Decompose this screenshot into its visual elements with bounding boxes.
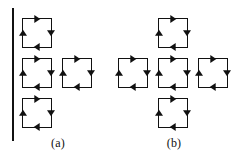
panel-a-label: (a) <box>0 136 116 151</box>
arrow-up-icon <box>19 30 27 36</box>
arrow-right-icon <box>74 55 80 63</box>
arrow-up-icon <box>115 70 123 76</box>
arrow-left-icon <box>170 123 176 131</box>
arrow-up-icon <box>19 70 27 76</box>
panel-b: (b) <box>116 0 232 158</box>
arrow-left-icon <box>34 43 40 51</box>
loop-a3 <box>62 58 92 88</box>
arrow-left-icon <box>74 83 80 91</box>
panel-b-label: (b) <box>116 136 232 151</box>
arrow-left-icon <box>170 83 176 91</box>
arrow-up-icon <box>195 70 203 76</box>
loop-b-top <box>158 18 188 48</box>
panel-a-boundary-line <box>12 8 14 141</box>
loop-b-center <box>158 58 188 88</box>
arrow-right-icon <box>34 95 40 103</box>
arrow-down-icon <box>47 30 55 36</box>
arrow-down-icon <box>223 70 231 76</box>
loop-b-left <box>118 58 148 88</box>
arrow-left-icon <box>34 83 40 91</box>
loop-a1 <box>22 18 52 48</box>
arrow-up-icon <box>19 110 27 116</box>
arrow-left-icon <box>130 83 136 91</box>
arrow-down-icon <box>47 70 55 76</box>
arrow-right-icon <box>130 55 136 63</box>
arrow-down-icon <box>183 30 191 36</box>
current-loop-figure: (a) (b) <box>0 0 232 158</box>
arrow-up-icon <box>59 70 67 76</box>
arrow-right-icon <box>170 95 176 103</box>
arrow-right-icon <box>170 55 176 63</box>
arrow-down-icon <box>87 70 95 76</box>
arrow-up-icon <box>155 70 163 76</box>
panel-a: (a) <box>0 0 116 158</box>
loop-b-right <box>198 58 228 88</box>
arrow-right-icon <box>170 15 176 23</box>
loop-a2 <box>22 58 52 88</box>
arrow-down-icon <box>183 110 191 116</box>
arrow-right-icon <box>34 55 40 63</box>
loop-a4 <box>22 98 52 128</box>
arrow-right-icon <box>210 55 216 63</box>
arrow-up-icon <box>155 30 163 36</box>
arrow-down-icon <box>47 110 55 116</box>
arrow-left-icon <box>210 83 216 91</box>
arrow-down-icon <box>143 70 151 76</box>
arrow-right-icon <box>34 15 40 23</box>
arrow-left-icon <box>34 123 40 131</box>
arrow-up-icon <box>155 110 163 116</box>
arrow-down-icon <box>183 70 191 76</box>
loop-b-bottom <box>158 98 188 128</box>
arrow-left-icon <box>170 43 176 51</box>
